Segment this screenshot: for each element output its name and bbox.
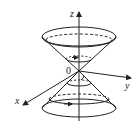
y-axis-label: y: [124, 80, 130, 91]
z-axis-label: z: [69, 8, 74, 19]
double-cone-diagram: z y x 0: [0, 0, 140, 126]
x-axis: [23, 71, 79, 105]
x-axis-label: x: [14, 95, 20, 106]
y-axis: [79, 71, 131, 78]
upper-cone-left-edge: [42, 37, 79, 71]
origin-label: 0: [66, 65, 71, 76]
axes: [23, 12, 131, 121]
upper-cone-right-edge: [79, 37, 116, 71]
angle-arc: [81, 76, 84, 80]
